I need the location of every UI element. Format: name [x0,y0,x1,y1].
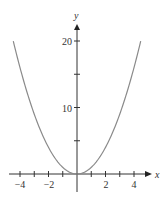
x-axis-arrow-icon [145,171,152,177]
y-tick-label: 10 [62,103,72,114]
parabola-chart: x y −4 −2 2 4 10 20 [0,0,167,201]
y-tick-label: 20 [62,36,72,47]
x-tick-label: 2 [104,179,109,190]
x-tick-label: 4 [132,179,137,190]
x-axis-label: x [154,169,160,180]
y-axis-arrow-icon [74,24,80,30]
y-axis-label: y [73,10,79,21]
x-tick-label: −2 [44,179,55,190]
x-tick-label: −4 [15,179,26,190]
